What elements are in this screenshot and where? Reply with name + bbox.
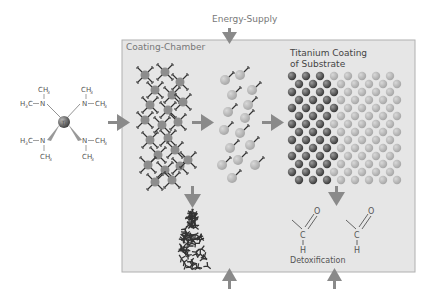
svg-text:3: 3: [90, 90, 93, 95]
coating-chamber-label: Coating-Chamber: [126, 42, 205, 52]
svg-text:N: N: [82, 100, 87, 108]
svg-text:H: H: [300, 246, 306, 255]
svg-text:C: C: [300, 231, 306, 240]
svg-text:N: N: [82, 137, 87, 145]
svg-text:N: N: [40, 137, 45, 145]
svg-text:3: 3: [104, 141, 107, 146]
svg-text:N: N: [40, 100, 45, 108]
tdmat-precursor-molecule: Ti CH3 H3C N CH3 N CH3 H3C N CH3 N CH3 C…: [20, 86, 107, 162]
detoxification-label: Detoxification: [290, 256, 346, 265]
titanium-coating-line2: of Substrate: [290, 59, 367, 70]
svg-text:3: 3: [91, 157, 94, 162]
titanium-coating-line1: Titanium Coating: [290, 48, 367, 59]
svg-text:H: H: [354, 246, 360, 255]
svg-text:3: 3: [49, 157, 52, 162]
svg-text:Ti: Ti: [60, 119, 66, 126]
svg-text:C: C: [28, 100, 33, 108]
svg-text:3: 3: [47, 90, 50, 95]
svg-text:3: 3: [104, 104, 107, 109]
svg-text:C: C: [28, 137, 33, 145]
ald-process-diagram: Ti CH3 H3C N CH3 N CH3 H3C N CH3 N CH3 C…: [0, 0, 438, 303]
energy-supply-label: Energy-Supply: [212, 14, 277, 24]
svg-text:C: C: [354, 231, 360, 240]
svg-text:O: O: [314, 207, 320, 216]
svg-text:O: O: [368, 207, 374, 216]
titanium-coating-title: Titanium Coating of Substrate: [290, 48, 367, 70]
